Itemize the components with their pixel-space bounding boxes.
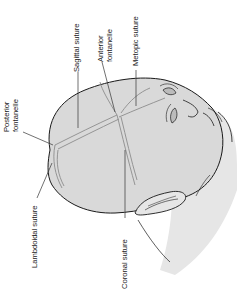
lambdoidal-suture-text: Lambdoidal suture [31, 206, 40, 268]
metopic-suture-text: Metopic suture [132, 16, 141, 66]
infant-skull-diagram: Posterior fontanelle Sagittal suture Ant… [0, 0, 237, 290]
posterior-fontanelle-leader [23, 132, 53, 145]
label-sagittal-suture: Sagittal suture [73, 23, 82, 72]
sagittal-suture-text: Sagittal suture [73, 23, 82, 72]
label-coronal-suture: Coronal suture [121, 239, 130, 289]
posterior-fontanelle-line2: fontanelle [12, 99, 21, 132]
label-metopic-suture: Metopic suture [132, 16, 141, 66]
label-anterior-fontanelle: Anterior fontanelle [97, 29, 114, 62]
coronal-suture-text: Coronal suture [121, 239, 130, 289]
label-lambdoidal-suture: Lambdoidal suture [31, 206, 40, 268]
label-posterior-fontanelle: Posterior fontanelle [3, 99, 20, 132]
anterior-fontanelle-line2: fontanelle [106, 29, 115, 62]
